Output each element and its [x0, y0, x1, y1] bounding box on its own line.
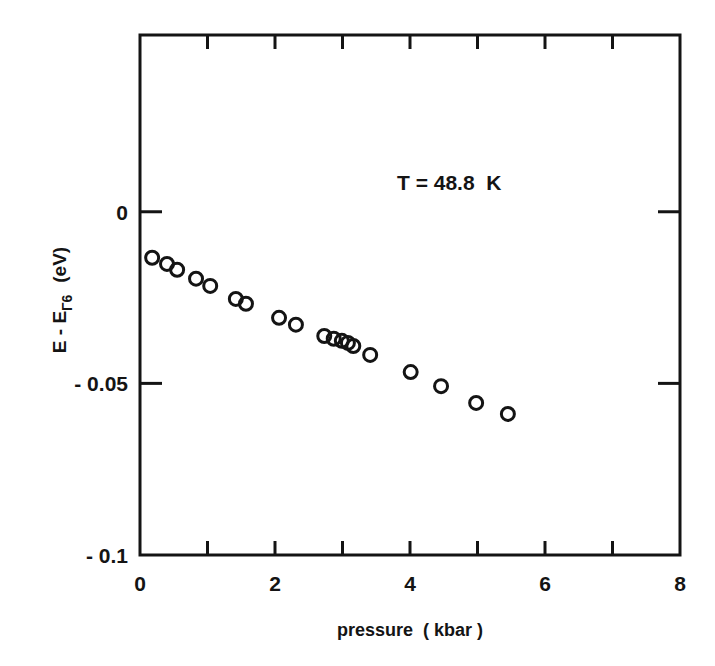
x-tick-label: 6: [539, 572, 551, 595]
data-point: [404, 366, 417, 379]
chart: 024680- 0.05- 0.1 T = 48.8 K pressure ( …: [0, 0, 715, 666]
y-axis-title-main: E - E: [49, 311, 70, 353]
y-tick-label: 0: [116, 201, 128, 224]
data-point: [470, 396, 483, 409]
svg-text:E - EΓ6(eV): E - EΓ6(eV): [49, 247, 75, 353]
data-point: [204, 279, 217, 292]
y-axis-title-subscript: Γ6: [59, 295, 75, 311]
plot-frame: [140, 35, 680, 555]
data-point: [289, 318, 302, 331]
axis-ticks: [140, 35, 680, 555]
y-tick-label: - 0.05: [74, 372, 128, 395]
data-point: [501, 407, 514, 420]
data-point: [171, 263, 184, 276]
x-tick-label: 8: [674, 572, 686, 595]
tick-labels: 024680- 0.05- 0.1: [74, 201, 686, 595]
x-tick-label: 4: [404, 572, 416, 595]
data-points: [146, 251, 515, 420]
data-point: [190, 272, 203, 285]
data-point: [146, 251, 159, 264]
x-tick-label: 0: [134, 572, 146, 595]
y-axis-title-unit: (eV): [49, 247, 70, 283]
y-tick-label: - 0.1: [86, 544, 128, 567]
y-axis-title: E - EΓ6(eV): [49, 247, 75, 353]
x-tick-label: 2: [269, 572, 281, 595]
temperature-annotation: T = 48.8 K: [397, 171, 501, 194]
data-point: [273, 311, 286, 324]
x-axis-title: pressure ( kbar ): [337, 620, 483, 640]
data-point: [364, 348, 377, 361]
data-point: [435, 380, 448, 393]
